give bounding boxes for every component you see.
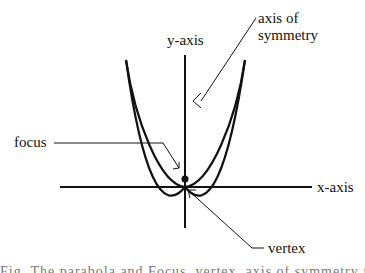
vertex-leader-line xyxy=(188,190,264,248)
symmetry-arrowhead-icon xyxy=(193,93,201,108)
focus-point xyxy=(182,176,189,183)
vertex-label: vertex xyxy=(268,240,305,256)
y-axis-label: y-axis xyxy=(167,32,204,48)
axis-of-symmetry-label-line1: axis of xyxy=(258,10,298,26)
x-axis-label: x-axis xyxy=(317,179,354,195)
axis-of-symmetry-label-line2: symmetry xyxy=(258,27,318,43)
symmetry-leader-line xyxy=(201,18,256,101)
focus-label: focus xyxy=(14,134,47,150)
cutoff-caption: Fig. The parabola and Focus, vertex, axi… xyxy=(0,266,365,273)
